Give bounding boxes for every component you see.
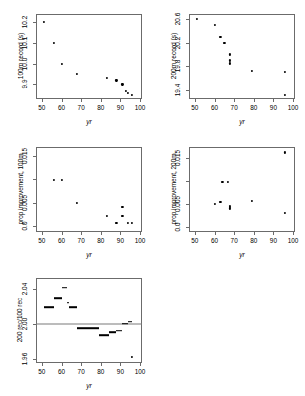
y-tick-label: 10.2 <box>21 16 28 28</box>
y-tick <box>33 359 36 360</box>
x-tick <box>215 232 216 235</box>
x-tick-label: 50 <box>38 368 45 375</box>
x-tick-label: 70 <box>78 368 85 375</box>
x-tick-label: 80 <box>250 237 257 244</box>
step-segment <box>54 297 62 299</box>
y-tick-label: 0.005 <box>21 195 28 211</box>
x-axis-title-ratio-200-over-100: yr <box>86 382 92 389</box>
x-tick <box>81 99 82 102</box>
x-tick-label: 50 <box>191 237 198 244</box>
panel-200m-record: 200m record (s) yr 506070809010019.419.8… <box>153 0 305 132</box>
x-tick-label: 100 <box>135 368 146 375</box>
y-tick-label: 0.0 <box>174 222 181 231</box>
step-segment <box>109 332 117 334</box>
x-tick-label: 100 <box>288 237 299 244</box>
x-tick <box>293 99 294 102</box>
panel-100m-record: 100m record (s) yr 50607080901009.910.01… <box>0 0 152 132</box>
x-tick-label: 50 <box>38 237 45 244</box>
x-tick-label: 50 <box>38 104 45 111</box>
x-tick-label: 70 <box>231 104 238 111</box>
y-tick <box>186 227 189 228</box>
y-tick <box>186 90 189 91</box>
y-tick <box>186 204 189 205</box>
y-tick <box>33 22 36 23</box>
x-tick <box>120 99 121 102</box>
x-tick-label: 100 <box>135 104 146 111</box>
x-tick <box>195 99 196 102</box>
x-tick <box>254 99 255 102</box>
x-tick-label: 60 <box>211 237 218 244</box>
step-segment <box>99 334 109 336</box>
y-tick <box>186 43 189 44</box>
y-tick-label: 1.96 <box>21 352 28 364</box>
y-tick <box>33 43 36 44</box>
step-segment <box>116 330 122 332</box>
x-tick-label: 100 <box>135 237 146 244</box>
plot-area-200m-record <box>189 14 295 99</box>
x-tick <box>62 363 63 366</box>
x-tick-label: 90 <box>117 237 124 244</box>
y-tick <box>33 84 36 85</box>
step-segment <box>69 306 77 308</box>
y-tick <box>33 289 36 290</box>
x-tick-label: 60 <box>58 237 65 244</box>
x-tick <box>62 99 63 102</box>
step-segment <box>44 306 54 308</box>
x-tick-label: 90 <box>270 104 277 111</box>
step-segment <box>77 327 99 329</box>
y-tick-label: 19.4 <box>174 84 181 96</box>
y-tick <box>186 66 189 67</box>
x-tick-label: 80 <box>97 237 104 244</box>
x-tick-label: 80 <box>97 104 104 111</box>
y-tick <box>33 64 36 65</box>
x-tick <box>62 232 63 235</box>
x-tick <box>81 232 82 235</box>
x-tick <box>273 232 274 235</box>
x-tick-label: 90 <box>270 237 277 244</box>
y-tick-label: 0.0 <box>21 222 28 231</box>
y-tick-label: 2.00 <box>21 317 28 329</box>
step-segment <box>128 321 132 323</box>
y-tick-label: 10.0 <box>21 58 28 70</box>
step-segment <box>122 323 128 325</box>
x-axis-title-200m-record: yr <box>239 118 245 125</box>
plot-area-prop-improvement-100m <box>36 147 142 232</box>
multi-panel-figure: 100m record (s) yr 50607080901009.910.01… <box>0 0 305 396</box>
x-axis-title-prop-improvement-200m: yr <box>239 251 245 258</box>
y-tick <box>33 156 36 157</box>
panel-prop-improvement-100m: prop improvement, 100m yr 50607080901000… <box>0 133 152 265</box>
y-tick-label: 10.1 <box>21 37 28 49</box>
x-tick <box>254 232 255 235</box>
y-tick-label: 0.005 <box>174 196 181 212</box>
x-tick <box>140 232 141 235</box>
plot-area-prop-improvement-200m <box>189 147 295 232</box>
x-tick <box>42 99 43 102</box>
x-tick <box>101 232 102 235</box>
x-tick-label: 70 <box>231 237 238 244</box>
x-tick <box>273 99 274 102</box>
step-segment <box>67 302 69 304</box>
x-tick-label: 80 <box>250 104 257 111</box>
x-tick-label: 90 <box>117 368 124 375</box>
x-tick <box>293 232 294 235</box>
x-tick <box>140 363 141 366</box>
x-tick <box>120 363 121 366</box>
x-tick-label: 80 <box>97 368 104 375</box>
x-tick-label: 70 <box>78 104 85 111</box>
x-tick <box>234 99 235 102</box>
x-axis-title-prop-improvement-100m: yr <box>86 251 92 258</box>
x-tick-label: 60 <box>58 368 65 375</box>
y-tick-label: 19.8 <box>174 60 181 72</box>
x-axis-title-100m-record: yr <box>86 118 92 125</box>
x-tick <box>140 99 141 102</box>
plot-area-100m-record <box>36 14 142 99</box>
step-segment <box>62 287 68 289</box>
x-tick-label: 100 <box>288 104 299 111</box>
y-tick <box>33 226 36 227</box>
x-tick <box>42 363 43 366</box>
y-tick <box>186 181 189 182</box>
y-tick <box>33 179 36 180</box>
y-tick-label: 0.015 <box>174 150 181 166</box>
x-tick <box>101 99 102 102</box>
y-tick-label: 20.2 <box>174 36 181 48</box>
